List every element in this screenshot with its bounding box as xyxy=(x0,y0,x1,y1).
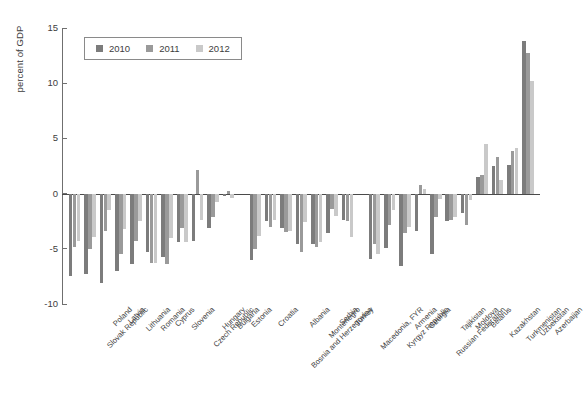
bar-2012-turkmenistan xyxy=(499,180,503,193)
bar-2012-slovenia xyxy=(169,194,173,238)
legend-item-2011[interactable]: 2011 xyxy=(146,43,179,54)
bar-2012-hungary xyxy=(200,194,204,220)
y-axis-tick-mark xyxy=(62,193,67,194)
bar-2012-tajikistan xyxy=(438,194,442,200)
y-axis-tick: 10 xyxy=(28,78,68,88)
bar-2012-cyprus xyxy=(154,194,158,264)
bar-2012-macedonia-fyr xyxy=(350,194,354,237)
y-axis-tick-label: -5 xyxy=(50,243,58,254)
bar-2012-serbia xyxy=(319,194,323,243)
y-axis-tick-label: 0 xyxy=(53,188,58,199)
bar-2012-latvia xyxy=(107,194,111,211)
y-axis-tick-label: 10 xyxy=(47,77,58,88)
bar-2012-georgia xyxy=(407,194,411,227)
y-axis-tick: -5 xyxy=(28,244,68,254)
bar-2012-azerbaijan xyxy=(530,81,534,194)
y-axis-spine xyxy=(62,28,63,304)
bar-2012-kyrgyz-republic xyxy=(376,194,380,255)
legend-item-2012[interactable]: 2012 xyxy=(196,43,230,54)
y-axis-tick: -10 xyxy=(28,299,68,309)
bar-2012-uzbekistan xyxy=(515,148,519,193)
plot-area: 151050-5-10 Slovak RepublicPolandLatviaL… xyxy=(62,25,540,307)
y-axis-tick-label: 15 xyxy=(47,22,58,33)
y-axis-tick-label: 5 xyxy=(53,132,58,143)
legend-item-2010[interactable]: 2010 xyxy=(96,43,130,54)
bar-2012-croatia xyxy=(257,194,261,236)
y-axis-tick-mark xyxy=(62,248,67,249)
x-axis-label-croatia: Croatia xyxy=(277,305,301,329)
bar-2010-russian-federation xyxy=(415,194,419,232)
bar-2011-hungary xyxy=(196,170,200,193)
bar-2010-hungary xyxy=(192,194,196,241)
y-axis-tick: 15 xyxy=(28,23,68,33)
bar-2012-estonia xyxy=(230,194,234,198)
bar-2012-albania xyxy=(288,194,292,232)
bar-2012-kazakhstan xyxy=(484,144,488,194)
bar-2012-poland xyxy=(92,194,96,237)
bar-2012-czech-republic xyxy=(184,194,188,243)
bar-2012-montenegro xyxy=(303,194,307,223)
legend-label: 2012 xyxy=(209,43,230,54)
bar-2012-turkey xyxy=(334,194,338,216)
legend-label: 2010 xyxy=(109,43,130,54)
y-axis-tick-mark xyxy=(62,138,67,139)
bar-2010-estonia xyxy=(223,194,227,196)
y-axis-tick-mark xyxy=(62,28,67,29)
bar-2012-slovak-republic xyxy=(77,194,81,241)
legend-label: 2011 xyxy=(159,43,179,54)
legend-swatch-icon xyxy=(196,45,203,52)
legend-swatch-icon xyxy=(146,45,153,52)
bar-2012-romania xyxy=(138,194,142,222)
bar-2012-bosnia-and-herzegovina xyxy=(273,194,277,220)
legend-swatch-icon xyxy=(96,45,103,52)
bar-2012-bulgaria xyxy=(215,194,219,203)
y-axis-title: percent of GDP xyxy=(14,0,28,119)
bar-2012-lithuania xyxy=(123,194,127,229)
y-axis-tick-label: -10 xyxy=(44,298,58,309)
y-axis-tick-mark xyxy=(62,83,67,84)
bar-2012-russian-federation xyxy=(423,189,427,193)
bar-2012-armenia xyxy=(392,194,396,211)
y-axis-tick: 5 xyxy=(28,133,68,143)
x-axis-label-albania: Albania xyxy=(308,305,332,329)
y-axis-tick-mark xyxy=(62,304,67,305)
bar-2012-moldova xyxy=(453,194,457,217)
chart-legend: 201020112012 xyxy=(84,37,242,60)
y-axis-tick: 0 xyxy=(28,189,68,199)
bar-2012-belarus xyxy=(469,194,473,201)
